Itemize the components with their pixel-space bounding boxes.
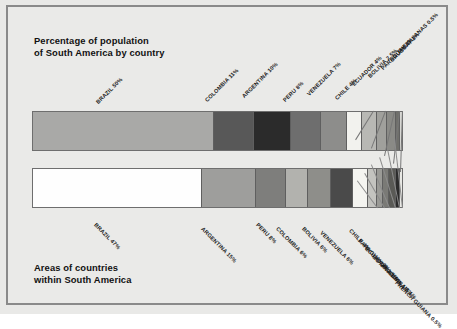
bar-segment-label: ARGENTINA 10% [241, 61, 279, 99]
bar-segment [33, 169, 202, 207]
bar-segment-label: ARGENTINA 15% [200, 226, 238, 264]
bottom-chart-title: Areas of countries within South America [34, 262, 132, 285]
area-stacked-bar [32, 168, 403, 208]
bar-segment [331, 169, 353, 207]
top-chart-title: Percentage of population of South Americ… [34, 35, 165, 58]
bar-segment-label: PERU 8% [282, 80, 305, 103]
bar-segment-label: VENEZUELA 7% [306, 61, 342, 97]
bar-segment [254, 112, 291, 150]
bar-segment [308, 169, 330, 207]
bar-segment [33, 112, 214, 150]
bar-segment [321, 112, 347, 150]
bar-segment [291, 112, 321, 150]
bar-segment-label: BRAZIL 50% [95, 76, 124, 105]
figure-frame: Percentage of population of South Americ… [6, 5, 448, 305]
bar-segment-label: BRAZIL 47% [93, 222, 122, 251]
bar-segment-label: FRENCH GUIANA 0.5% [394, 280, 443, 329]
bar-segment [214, 112, 254, 150]
bar-segment-label: THE GUIANAS 0.5% [396, 12, 439, 55]
bar-segment-label: PERU 8% [255, 222, 278, 245]
bar-segment [256, 169, 286, 207]
population-stacked-bar [32, 111, 403, 151]
bar-segment [286, 169, 308, 207]
bar-segment [202, 169, 257, 207]
bar-segment-label: COLOMBIA 11% [204, 67, 240, 103]
